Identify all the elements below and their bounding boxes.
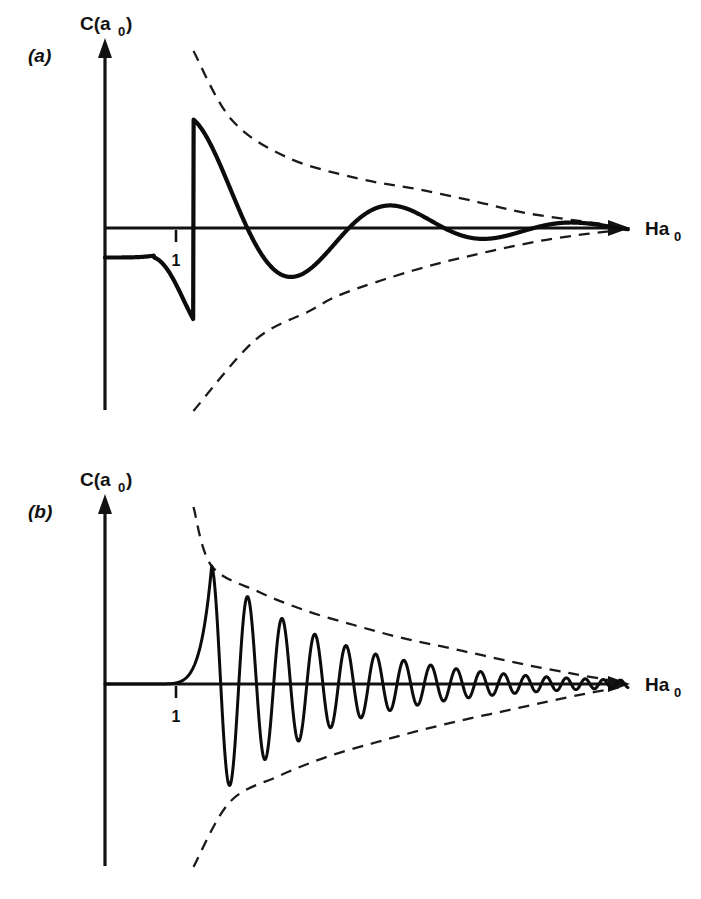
panel-b-label: (b) <box>28 501 52 522</box>
panel-b-x-axis-title-subscript: 0 <box>674 685 681 700</box>
panel-a-y-axis-title-main: C(a <box>80 13 111 34</box>
panel-b-y-axis-title-subscript: 0 <box>118 480 125 495</box>
panel-a-x-axis-title-main: Ha <box>645 218 670 239</box>
panel-a-y-axis-title-paren: ) <box>126 13 132 34</box>
panel-a-y-axis-title-subscript: 0 <box>118 24 125 39</box>
panel-a-x-tick-label-1: 1 <box>172 252 181 269</box>
panel-b-y-axis-title-main: C(a <box>80 469 111 490</box>
damped-oscillation-figure: (a) C(a 0 ) Ha 0 1 (b) C(a 0 ) Ha 0 <box>0 0 701 899</box>
panel-a-label: (a) <box>28 45 51 66</box>
panel-b-x-axis-title-main: Ha <box>645 674 670 695</box>
panel-b-x-tick-label-1: 1 <box>172 708 181 725</box>
panel-b-y-axis-title-paren: ) <box>126 469 132 490</box>
panel-a-x-axis-title-subscript: 0 <box>674 229 681 244</box>
